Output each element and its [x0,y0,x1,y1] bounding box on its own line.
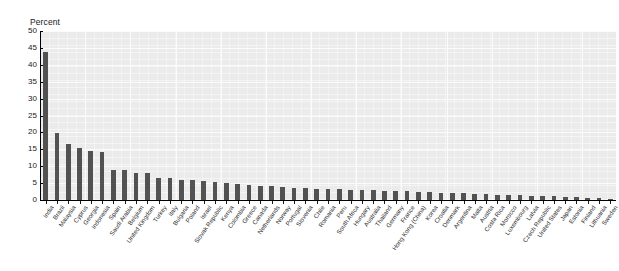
bar [111,170,116,200]
y-axis-tick-mark [40,149,43,150]
bar [77,148,82,200]
bar [303,188,308,200]
bar [360,190,365,200]
bar [134,173,139,200]
y-axis-tick-mark [40,132,43,133]
plot-area [40,31,616,200]
y-axis-tick-label: 0 [33,196,37,204]
y-axis-tick-mark [40,166,43,167]
bar [269,186,274,200]
bar [405,191,410,200]
bar [280,187,285,200]
bar [326,189,331,200]
bar [235,184,240,200]
bar [461,193,466,200]
bar [439,193,444,200]
y-axis-tick-label: 25 [28,112,37,120]
bar [100,152,105,200]
bar [156,178,161,200]
y-axis-tick-label: 30 [28,95,37,103]
bar-chart: Percent 05101520253035404550 IndiaBrazil… [0,0,619,271]
bar [337,189,342,200]
y-axis-tick-label: 15 [28,145,37,153]
bar [292,188,297,201]
bar [348,190,353,200]
bar [258,186,263,200]
bar [145,173,150,200]
y-axis-tick-mark [40,200,43,201]
bar [371,190,376,200]
bar [393,191,398,200]
y-axis-tick-label: 45 [28,44,37,52]
bar [427,192,432,200]
y-axis-tick-mark [40,116,43,117]
x-axis-labels: IndiaBrazilMalaysiaCyprusGeorgiaIndonesi… [0,204,619,271]
y-axis-tick-label: 20 [28,128,37,136]
y-axis-tick-mark [40,48,43,49]
y-axis-tick-label: 10 [28,162,37,170]
bar [122,170,127,200]
y-axis-tick-mark [40,31,43,32]
bar [450,193,455,200]
bar [88,151,93,200]
bar [55,133,60,200]
bar [168,178,173,200]
y-axis-tick-mark [40,99,43,100]
y-axis-tick-label: 40 [28,61,37,69]
bar [201,181,206,200]
bar [190,180,195,200]
bar [416,192,421,200]
y-axis-tick-mark [40,183,43,184]
bar [382,191,387,200]
bar [179,180,184,200]
y-axis-tick-label: 35 [28,78,37,86]
bar [247,185,252,200]
y-axis-tick-label: 50 [28,27,37,35]
bar [66,144,71,200]
bar [43,52,48,200]
y-axis-tick-label: 5 [33,179,37,187]
bar [224,183,229,200]
bar [213,182,218,200]
y-axis-ticks: 05101520253035404550 [18,31,37,200]
bar-series [40,31,616,200]
y-axis-tick-mark [40,65,43,66]
bar [314,189,319,200]
y-axis-tick-mark [40,82,43,83]
